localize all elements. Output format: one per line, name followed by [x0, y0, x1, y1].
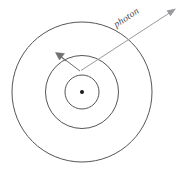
photon-arrowhead	[167, 9, 177, 17]
nucleus-dot	[80, 90, 84, 94]
photon-label: photon	[111, 6, 141, 30]
diagram-canvas: photon	[0, 0, 179, 178]
atom-photon-diagram: photon	[0, 0, 179, 178]
